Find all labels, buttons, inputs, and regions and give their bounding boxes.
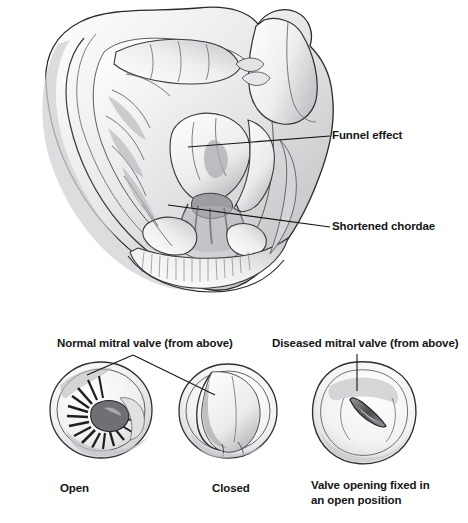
valve-open-drawing — [50, 362, 152, 458]
valve-closed-drawing — [179, 364, 277, 458]
callout-label-shortened-chordae: Shortened chordae — [332, 220, 435, 232]
caption-valve-open: Open — [60, 482, 89, 494]
illustration-canvas — [0, 0, 468, 523]
valve-open-orifice — [91, 401, 129, 432]
callout-label-funnel-effect: Funnel effect — [332, 129, 402, 141]
heart-cross-section-drawing — [42, 7, 333, 292]
caption-valve-stenotic-line1: Valve opening fixed in — [311, 479, 430, 491]
heading-diseased-mitral-valve: Diseased mitral valve (from above) — [272, 337, 458, 349]
valve-diseased-drawing — [312, 362, 415, 464]
medical-illustration-figure: Funnel effect Shortened chordae Normal m… — [0, 0, 468, 523]
heading-normal-mitral-valve: Normal mitral valve (from above) — [57, 337, 233, 349]
caption-valve-stenotic-line2: an open position — [311, 494, 401, 506]
caption-valve-closed: Closed — [212, 482, 250, 494]
